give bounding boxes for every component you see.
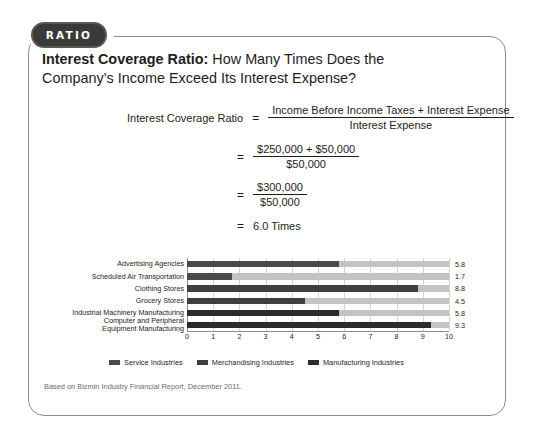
- formula-denominator-2: $50,000: [253, 156, 359, 170]
- chart-category-label: Grocery Stores: [60, 295, 184, 307]
- chart-bar-row: 5.8: [187, 258, 449, 270]
- chart-category-label: Advertising Agencies: [60, 258, 184, 270]
- chart-bar-value: 5.8: [455, 309, 465, 318]
- chart-category-label-line: Advertising Agencies: [117, 260, 184, 268]
- chart-category-label-line: Clothing Stores: [135, 285, 184, 293]
- formula-equals-4: =: [237, 219, 244, 233]
- formula-row-substitution: = $250,000 + $50,000 $50,000: [228, 143, 462, 170]
- formula-block: Interest Coverage Ratio = Income Before …: [42, 104, 462, 233]
- chart-x-tick: 8: [395, 332, 399, 341]
- chart-bar-value: 4.5: [455, 297, 465, 306]
- chart-x-tick: 6: [342, 332, 346, 341]
- chart-x-tick: 9: [421, 332, 425, 341]
- chart-bar: [187, 298, 305, 304]
- formula-fraction-2: $250,000 + $50,000 $50,000: [253, 143, 359, 170]
- formula-fraction-3: $300,000 $50,000: [253, 181, 307, 208]
- legend-swatch: [109, 360, 120, 366]
- chart-plot-area: 5.81.78.84.55.89.3: [187, 258, 449, 331]
- chart-bar: [187, 261, 339, 267]
- chart-category-label-line: Scheduled Air Transportation: [92, 273, 184, 281]
- chart-bar-row: 5.8: [187, 307, 449, 319]
- chart-x-tick: 7: [368, 332, 372, 341]
- chart-category-label: Computer and PeripheralEquipment Manufac…: [60, 319, 184, 331]
- chart-bar-row: 9.3: [187, 319, 449, 331]
- chart-legend: Service IndustriesMerchandising Industri…: [109, 358, 418, 367]
- formula-equals-1: =: [252, 111, 259, 125]
- formula-numerator-2: $250,000 + $50,000: [253, 143, 359, 156]
- ratio-badge: RATIO: [31, 22, 107, 48]
- chart-bar: [187, 322, 431, 328]
- chart-bar-row: 1.7: [187, 270, 449, 282]
- legend-item: Service Industries: [109, 358, 183, 367]
- chart-x-tick: 4: [290, 332, 294, 341]
- formula-numerator-1: Income Before Income Taxes + Interest Ex…: [268, 104, 513, 117]
- formula-result: 6.0 Times: [253, 220, 301, 232]
- legend-swatch: [197, 360, 208, 366]
- formula-row-result: = 6.0 Times: [228, 219, 462, 233]
- chart-category-label-line: Grocery Stores: [136, 297, 184, 305]
- chart-bar: [187, 310, 339, 316]
- interest-coverage-chart: Advertising AgenciesScheduled Air Transp…: [0, 258, 538, 358]
- legend-label: Service Industries: [124, 358, 183, 367]
- formula-equals-2: =: [237, 150, 244, 164]
- chart-x-tick: 10: [445, 332, 453, 341]
- legend-label: Manufacturing Industries: [323, 358, 404, 367]
- formula-fraction-1: Income Before Income Taxes + Interest Ex…: [268, 104, 513, 131]
- formula-denominator-1: Interest Expense: [268, 117, 513, 131]
- source-note: Based on Bizmin Industry Financial Repor…: [44, 382, 242, 391]
- chart-x-tick: 3: [264, 332, 268, 341]
- formula-equals-3: =: [237, 188, 244, 202]
- chart-bar-row: 4.5: [187, 295, 449, 307]
- chart-category-label: Clothing Stores: [60, 282, 184, 294]
- formula-denominator-3: $50,000: [253, 194, 307, 208]
- chart-x-tick: 1: [211, 332, 215, 341]
- chart-bar-value: 8.8: [455, 284, 465, 293]
- legend-label: Merchandising Industries: [212, 358, 294, 367]
- chart-bar-row: 8.8: [187, 282, 449, 294]
- chart-bar-value: 9.3: [455, 321, 465, 330]
- chart-bar-value: 1.7: [455, 272, 465, 281]
- chart-category-labels: Advertising AgenciesScheduled Air Transp…: [60, 258, 184, 331]
- chart-x-tick: 2: [237, 332, 241, 341]
- chart-bar: [187, 273, 232, 279]
- formula-label: Interest Coverage Ratio: [127, 112, 243, 124]
- chart-bar: [187, 285, 418, 291]
- chart-x-axis: 012345678910: [187, 332, 449, 344]
- ratio-badge-label: RATIO: [46, 29, 92, 41]
- chart-x-tick: 5: [316, 332, 320, 341]
- formula-numerator-3: $300,000: [253, 181, 307, 194]
- chart-gridline: [449, 258, 450, 331]
- chart-x-tick: 0: [185, 332, 189, 341]
- formula-row-definition: Interest Coverage Ratio = Income Before …: [127, 104, 462, 131]
- page-title: Interest Coverage Ratio: How Many Times …: [42, 50, 442, 88]
- legend-swatch: [308, 360, 319, 366]
- legend-item: Merchandising Industries: [197, 358, 294, 367]
- page-title-lead: Interest Coverage Ratio:: [42, 51, 208, 67]
- chart-category-label-line: Equipment Manufacturing: [102, 325, 184, 333]
- chart-category-label: Scheduled Air Transportation: [60, 270, 184, 282]
- legend-item: Manufacturing Industries: [308, 358, 404, 367]
- chart-bar-value: 5.8: [455, 260, 465, 269]
- formula-row-reduced: = $300,000 $50,000: [228, 181, 462, 208]
